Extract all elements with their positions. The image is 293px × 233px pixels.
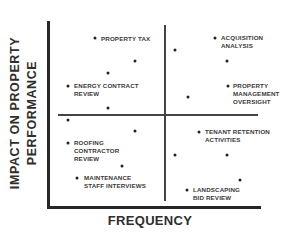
y-axis-title-line-2: PERFORMANCE bbox=[24, 18, 41, 208]
label-line: PROPERTY TAX bbox=[101, 35, 150, 43]
point-dot-property-management-oversight bbox=[227, 85, 230, 88]
point-dot bbox=[134, 60, 137, 63]
label-line: REVIEW bbox=[74, 90, 139, 98]
point-dot-tenant-retention-activities bbox=[198, 131, 201, 134]
label-line: LANDSCAPING bbox=[193, 186, 240, 194]
label-line: ACTIVITIES bbox=[205, 136, 270, 144]
label-line: MANAGEMENT bbox=[233, 90, 280, 98]
point-dot bbox=[67, 119, 70, 122]
point-label-energy-contract-review: ENERGY CONTRACT REVIEW bbox=[74, 82, 139, 98]
label-line: TENANT RETENTION bbox=[205, 128, 270, 136]
point-dot-landscaping-bid-review bbox=[186, 189, 189, 192]
point-label-property-tax: PROPERTY TAX bbox=[101, 35, 150, 43]
point-dot-acquisition-analysis bbox=[214, 37, 217, 40]
point-label-landscaping-bid-review: LANDSCAPING BID REVIEW bbox=[193, 186, 240, 202]
point-label-maintenance-staff-interviews: MAINTENANCE STAFF INTERVIEWS bbox=[84, 174, 146, 190]
point-label-acquisition-analysis: ACQUISITION ANALYSIS bbox=[221, 34, 263, 50]
label-line: ANALYSIS bbox=[221, 42, 263, 50]
y-axis-title-line-1: IMPACT ON PROPERTY bbox=[7, 18, 24, 208]
point-label-property-management-oversight: PROPERTY MANAGEMENT OVERSIGHT bbox=[233, 82, 280, 106]
point-label-roofing-contractor-review: ROOFING CONTRACTOR REVIEW bbox=[74, 139, 119, 163]
label-line: REVIEW bbox=[74, 155, 119, 163]
point-dot-maintenance-staff-interviews bbox=[76, 177, 79, 180]
point-dot bbox=[134, 130, 137, 133]
point-dot bbox=[226, 60, 229, 63]
quadrant-chart: FREQUENCY IMPACT ON PROPERTY PERFORMANCE… bbox=[0, 0, 293, 233]
quadrant-divider-horizontal bbox=[58, 114, 258, 116]
point-dot-roofing-contractor-review bbox=[67, 142, 70, 145]
point-dot-energy-contract-review bbox=[67, 85, 70, 88]
label-line: ACQUISITION bbox=[221, 34, 263, 42]
point-dot bbox=[121, 165, 124, 168]
point-dot bbox=[239, 179, 242, 182]
label-line: ENERGY CONTRACT bbox=[74, 82, 139, 90]
point-dot bbox=[226, 154, 229, 157]
label-line: STAFF INTERVIEWS bbox=[84, 182, 146, 190]
point-label-tenant-retention-activities: TENANT RETENTION ACTIVITIES bbox=[205, 128, 270, 144]
label-line: BID REVIEW bbox=[193, 194, 240, 202]
point-dot bbox=[174, 154, 177, 157]
x-axis-title: FREQUENCY bbox=[100, 213, 200, 228]
x-axis-line bbox=[47, 206, 261, 209]
point-dot bbox=[107, 72, 110, 75]
label-line: MAINTENANCE bbox=[84, 174, 146, 182]
point-dot-property-tax bbox=[94, 37, 97, 40]
label-line: OVERSIGHT bbox=[233, 98, 280, 106]
label-line: ROOFING bbox=[74, 139, 119, 147]
label-line: PROPERTY bbox=[233, 82, 280, 90]
quadrant-divider-vertical bbox=[164, 25, 166, 201]
y-axis-title: IMPACT ON PROPERTY PERFORMANCE bbox=[7, 18, 41, 208]
point-dot bbox=[174, 49, 177, 52]
label-line: CONTRACTOR bbox=[74, 147, 119, 155]
y-axis-line bbox=[47, 21, 50, 209]
point-dot bbox=[187, 96, 190, 99]
point-dot bbox=[107, 107, 110, 110]
